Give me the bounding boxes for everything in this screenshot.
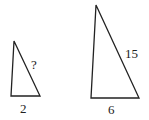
large-hypotenuse-label: 15	[125, 46, 138, 61]
small-base-label: 2	[20, 101, 27, 116]
similar-triangles-diagram: ? 2 15 6	[0, 0, 149, 120]
large-base-label: 6	[108, 102, 115, 117]
small-hypotenuse-label: ?	[31, 57, 37, 72]
